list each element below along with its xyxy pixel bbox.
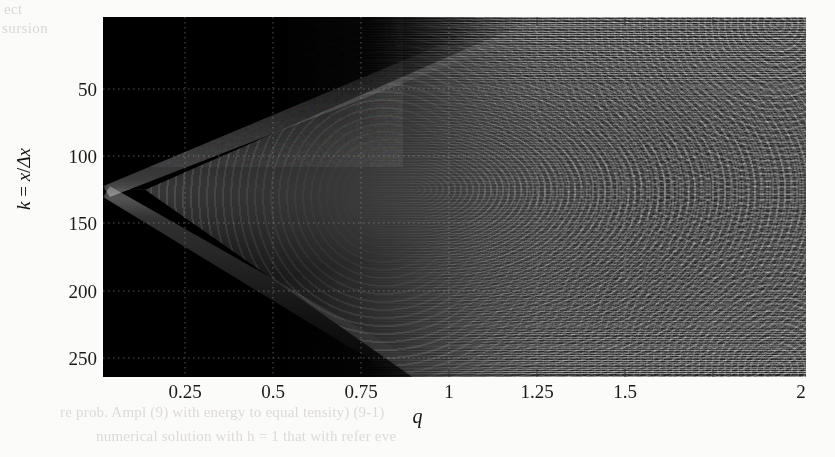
y-axis-label: k = x/Δx [13, 119, 35, 239]
y-axis-label-slash: / [13, 168, 34, 173]
x-tick-label: 0.25 [155, 381, 215, 403]
x-tick-label: 1.25 [507, 381, 567, 403]
x-tick-label: 0.75 [331, 381, 391, 403]
y-axis-tick-labels: 50 100 150 200 250 [45, 17, 97, 377]
figure-dispersion-heatmap: ect sursion re prob. Ampl (9) with energ… [0, 0, 835, 457]
y-tick-label: 150 [51, 213, 97, 235]
x-tick-label: 0.5 [243, 381, 303, 403]
x-axis-label: q [0, 405, 835, 428]
x-tick-label: 1.5 [595, 381, 655, 403]
y-axis-label-x: x [13, 173, 34, 181]
x-tick-label: 2 [771, 381, 831, 403]
ghost-text-top-1: ect [4, 1, 23, 18]
scan-grain-coarse [103, 17, 403, 167]
y-axis-label-eq: = [13, 181, 34, 201]
ghost-text-bottom-2: numerical solution with h = 1 that with … [96, 428, 396, 445]
ghost-text-top-2: sursion [2, 20, 48, 37]
y-tick-label: 250 [51, 348, 97, 370]
heatmap-image [103, 17, 806, 377]
y-axis-label-delta-x: Δx [13, 148, 34, 168]
y-axis-label-k: k [13, 202, 34, 210]
x-tick-label: 1 [419, 381, 479, 403]
y-tick-label: 100 [51, 146, 97, 168]
y-tick-label: 50 [51, 79, 97, 101]
y-tick-label: 200 [51, 281, 97, 303]
